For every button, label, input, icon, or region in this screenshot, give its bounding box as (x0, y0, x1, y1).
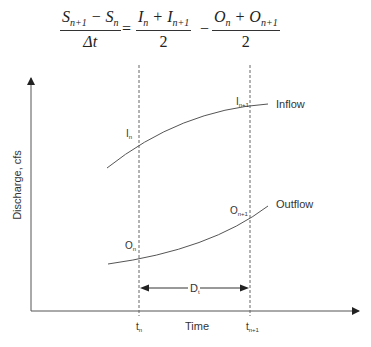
hydrograph-diagram: Discharge, cfs Time Inflow Outflow In In… (0, 0, 371, 347)
inflow-n-label: In (126, 128, 132, 140)
y-axis-label: Discharge, cfs (11, 150, 23, 220)
tick-tn1: tn+1 (246, 321, 260, 333)
inflow-label: Inflow (276, 98, 305, 110)
outflow-n-label: On (125, 240, 136, 252)
tick-tn: tn (136, 321, 142, 333)
outflow-label: Outflow (276, 198, 313, 210)
interval-label: Dt (190, 282, 200, 295)
x-axis-label: Time (185, 320, 209, 332)
inflow-n1-label: In+1 (236, 96, 250, 108)
outflow-n1-label: On+1 (230, 205, 249, 217)
